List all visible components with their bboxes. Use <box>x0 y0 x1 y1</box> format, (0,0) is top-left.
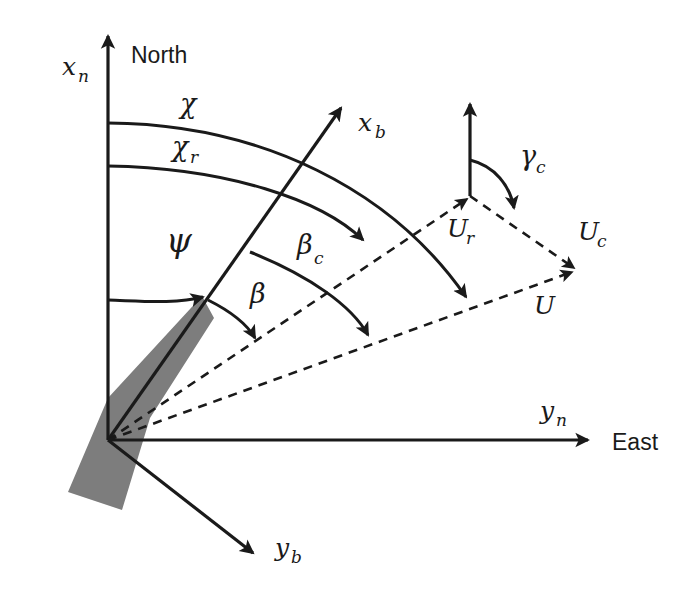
angle-label-beta: β <box>249 278 266 309</box>
svg-text:n: n <box>556 410 567 430</box>
angle-arc-psi <box>108 297 203 302</box>
angle-arc-chi <box>108 123 466 297</box>
current-velocity-vector <box>470 196 574 268</box>
svg-text:c: c <box>597 231 607 251</box>
angle-label-psi: ψ <box>166 221 193 260</box>
svg-text:n: n <box>78 66 89 86</box>
vector-label-u: U <box>534 291 556 320</box>
ned-y-axis-label: y n <box>539 396 567 430</box>
svg-text:b: b <box>375 122 386 142</box>
svg-text:c: c <box>536 157 546 177</box>
svg-text:r: r <box>466 228 475 248</box>
svg-text:β: β <box>296 229 313 260</box>
east-label: East <box>612 429 659 455</box>
svg-text:U: U <box>534 291 556 320</box>
svg-text:r: r <box>190 147 199 167</box>
svg-text:χ: χ <box>178 88 198 119</box>
body-y-axis-label: y b <box>274 533 302 567</box>
vector-label-ur: U r <box>447 214 475 248</box>
svg-text:γ: γ <box>520 140 537 171</box>
angle-arc-beta-c <box>250 252 368 335</box>
body-x-axis-label: x b <box>358 108 386 142</box>
svg-text:y: y <box>274 533 290 562</box>
body-x-axis <box>108 108 341 440</box>
svg-text:b: b <box>291 547 302 567</box>
angle-label-gamma-c: γ c <box>520 140 546 177</box>
vector-label-uc: U c <box>578 217 607 251</box>
svg-text:χ: χ <box>170 131 190 162</box>
kinematics-diagram: North East x n y n x b y b χ χ <box>0 0 689 596</box>
svg-text:ψ: ψ <box>166 221 193 260</box>
svg-text:c: c <box>314 248 324 268</box>
svg-text:x: x <box>358 108 372 137</box>
angle-arc-beta <box>208 300 255 338</box>
north-label: North <box>131 42 187 68</box>
diagram-canvas: North East x n y n x b y b χ χ <box>0 0 689 596</box>
svg-text:x: x <box>62 52 76 81</box>
angle-label-beta-c: β c <box>296 229 324 268</box>
body-y-axis <box>108 440 253 553</box>
angle-arc-chi-r <box>108 166 363 240</box>
ned-x-axis-label: x n <box>62 52 89 86</box>
svg-text:β: β <box>249 278 266 309</box>
ship-hull <box>68 296 214 510</box>
svg-text:y: y <box>539 396 555 425</box>
angle-label-chi-r: χ r <box>170 131 199 167</box>
angle-label-chi: χ <box>178 88 198 119</box>
